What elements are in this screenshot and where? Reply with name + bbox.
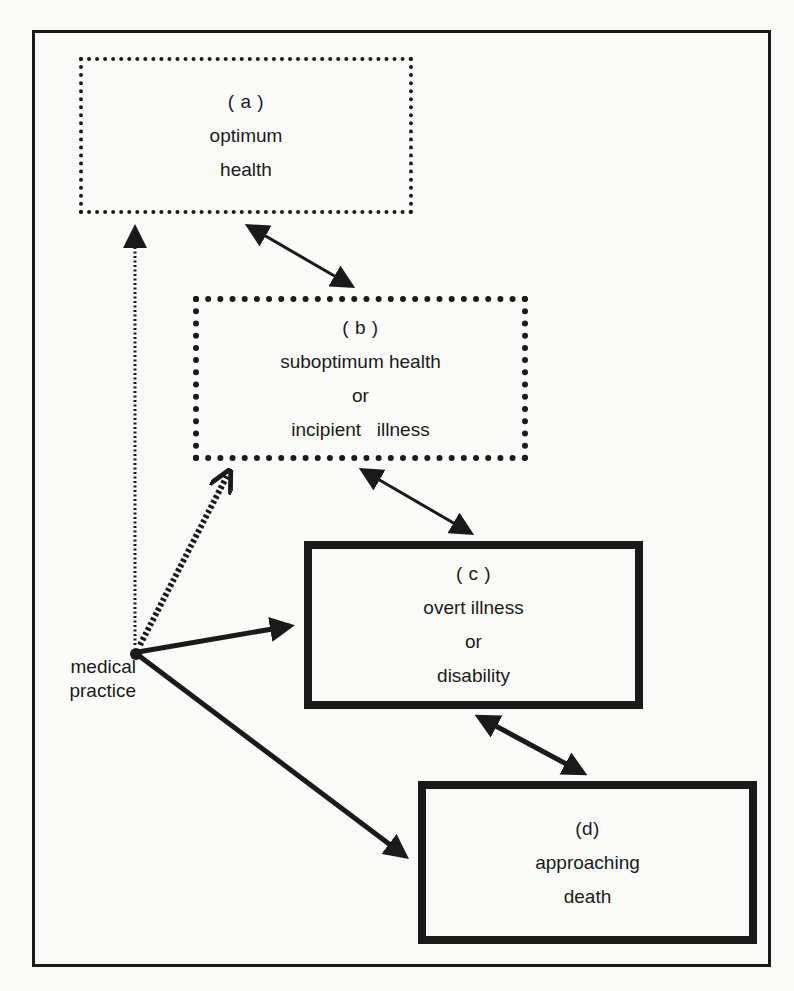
box-c-line-3: disability bbox=[437, 659, 510, 693]
box-c-line-2: or bbox=[465, 625, 482, 659]
box-suboptimum-health: ( b ) suboptimum health or incipient ill… bbox=[193, 296, 528, 461]
box-b-line-1: suboptimum health bbox=[280, 345, 441, 379]
arrow-practice-b bbox=[140, 474, 228, 645]
arrow-b-c bbox=[364, 471, 469, 532]
box-d-line-1: approaching bbox=[535, 846, 640, 880]
box-a-tag: ( a ) bbox=[228, 85, 264, 119]
box-b-line-3: incipient illness bbox=[291, 413, 429, 447]
medical-practice-line-2: practice bbox=[48, 679, 136, 703]
box-a-line-2: health bbox=[220, 153, 272, 187]
box-approaching-death: (d) approaching death bbox=[418, 781, 757, 944]
medical-practice-line-1: medical bbox=[48, 655, 136, 679]
arrow-a-b bbox=[250, 227, 350, 285]
box-overt-illness: ( c ) overt illness or disability bbox=[304, 541, 643, 709]
box-d-line-2: death bbox=[564, 880, 612, 914]
box-b-tag: ( b ) bbox=[342, 311, 378, 345]
medical-practice-label: medical practice bbox=[48, 655, 136, 703]
box-optimum-health: ( a ) optimum health bbox=[79, 57, 413, 214]
arrow-practice-c bbox=[138, 626, 290, 652]
box-d-tag: (d) bbox=[575, 812, 600, 846]
box-a-line-1: optimum bbox=[210, 119, 283, 153]
box-c-tag: ( c ) bbox=[456, 557, 491, 591]
box-b-line-2: or bbox=[352, 379, 369, 413]
arrow-c-d bbox=[479, 717, 583, 773]
box-c-line-1: overt illness bbox=[423, 591, 523, 625]
